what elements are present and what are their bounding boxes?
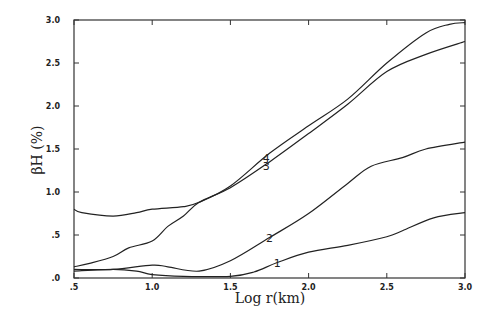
curve-labels: 1234 (263, 152, 281, 271)
y-tick-label: 2.0 (46, 102, 61, 111)
y-axis-title: βH (%) (29, 126, 45, 175)
x-axis-title: Log r(km) (235, 290, 306, 306)
x-tick-label: 2.5 (380, 283, 395, 292)
curve-4 (74, 23, 465, 217)
curve-label-4: 4 (263, 152, 270, 165)
y-tick-label: 2.5 (46, 59, 61, 68)
y-tick-label: 3.0 (46, 16, 61, 25)
x-tick-label: .5 (70, 283, 79, 292)
y-tick-label: 1.0 (46, 188, 61, 197)
x-tick-label: 1.0 (145, 283, 160, 292)
y-tick-label: .5 (51, 231, 60, 240)
axis-ticks: .51.01.52.02.53.0.0.51.01.52.02.53.0 (46, 16, 473, 292)
x-tick-label: 3.0 (458, 283, 473, 292)
curve-label-2: 2 (266, 232, 273, 245)
y-tick-label: 1.5 (46, 145, 61, 154)
curve-label-1: 1 (274, 257, 281, 270)
y-tick-label: .0 (51, 274, 60, 283)
line-chart: .51.01.52.02.53.0.0.51.01.52.02.53.0 123… (0, 0, 493, 328)
